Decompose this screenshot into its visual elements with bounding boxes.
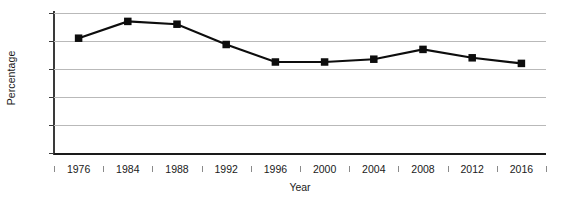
x-tick-label: 1984 bbox=[116, 163, 139, 175]
data-point-marker bbox=[468, 54, 476, 62]
x-tick-label: 1992 bbox=[215, 163, 238, 175]
data-point-marker bbox=[75, 34, 83, 42]
x-tick-mark bbox=[202, 166, 203, 172]
data-series bbox=[54, 13, 546, 153]
series-markers bbox=[75, 18, 525, 68]
data-point-marker bbox=[419, 46, 427, 54]
series-line bbox=[79, 21, 522, 63]
line-chart: Percentage 020406080100 1976198419881992… bbox=[0, 0, 569, 199]
x-tick-mark bbox=[546, 166, 547, 172]
y-axis-title: Percentage bbox=[0, 0, 22, 155]
data-point-marker bbox=[370, 55, 378, 63]
x-tick-label: 1988 bbox=[165, 163, 188, 175]
x-tick-mark bbox=[300, 166, 301, 172]
x-tick-mark bbox=[152, 166, 153, 172]
x-tick-label: 2004 bbox=[362, 163, 385, 175]
x-tick-mark bbox=[103, 166, 104, 172]
x-tick-mark bbox=[251, 166, 252, 172]
data-point-marker bbox=[173, 20, 181, 28]
x-tick-mark bbox=[349, 166, 350, 172]
data-point-marker bbox=[321, 58, 329, 66]
x-tick-mark bbox=[497, 166, 498, 172]
axis-baseline bbox=[54, 153, 546, 155]
y-tick-mark bbox=[49, 153, 54, 154]
x-tick-label: 2012 bbox=[461, 163, 484, 175]
x-tick-label: 1976 bbox=[67, 163, 90, 175]
y-axis-title-label: Percentage bbox=[5, 50, 17, 105]
x-tick-mark bbox=[448, 166, 449, 172]
data-point-marker bbox=[124, 18, 132, 26]
x-tick-label: 2000 bbox=[313, 163, 336, 175]
x-axis-title: Year bbox=[54, 181, 546, 193]
data-point-marker bbox=[222, 41, 230, 49]
x-tick-mark bbox=[54, 166, 55, 172]
x-tick-label: 2008 bbox=[411, 163, 434, 175]
data-point-marker bbox=[518, 60, 526, 68]
plot-area: 020406080100 bbox=[54, 13, 546, 153]
x-tick-label: 2016 bbox=[510, 163, 533, 175]
data-point-marker bbox=[272, 58, 280, 66]
x-tick-mark bbox=[398, 166, 399, 172]
x-tick-label: 1996 bbox=[264, 163, 287, 175]
